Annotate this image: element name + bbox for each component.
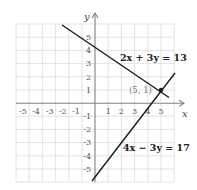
- svg-text:3: 3: [132, 107, 137, 116]
- svg-text:-2: -2: [59, 107, 67, 116]
- svg-text:1: 1: [86, 86, 91, 95]
- svg-text:2: 2: [86, 73, 91, 82]
- svg-text:-1: -1: [72, 107, 80, 116]
- svg-text:-2: -2: [83, 125, 91, 134]
- svg-text:-5: -5: [19, 107, 27, 116]
- equation-label-1: 2x + 3y = 13: [120, 52, 187, 63]
- svg-text:-4: -4: [32, 107, 40, 116]
- svg-text:5: 5: [86, 33, 91, 42]
- svg-text:-5: -5: [83, 165, 91, 174]
- x-axis-label: x: [182, 108, 188, 119]
- svg-text:5: 5: [158, 107, 163, 116]
- intersection-point: [159, 88, 163, 92]
- coordinate-graph: x y -5 -4 -3 -2 -1 1 2 3 4 5 5 4 3 2 1 -…: [0, 0, 197, 190]
- svg-text:-3: -3: [83, 138, 91, 147]
- svg-text:-4: -4: [83, 152, 91, 161]
- svg-text:-3: -3: [46, 107, 54, 116]
- svg-text:-1: -1: [83, 112, 91, 121]
- equation-label-2: 4x − 3y = 17: [123, 142, 190, 153]
- svg-text:4: 4: [86, 46, 91, 55]
- svg-text:2: 2: [119, 107, 124, 116]
- x-tick-labels: -5 -4 -3 -2 -1 1 2 3 4 5: [19, 107, 163, 116]
- svg-text:3: 3: [86, 59, 91, 68]
- svg-text:1: 1: [106, 107, 111, 116]
- intersection-label: (5, 1): [129, 85, 152, 95]
- axes: [16, 13, 184, 182]
- y-axis-label: y: [83, 11, 90, 22]
